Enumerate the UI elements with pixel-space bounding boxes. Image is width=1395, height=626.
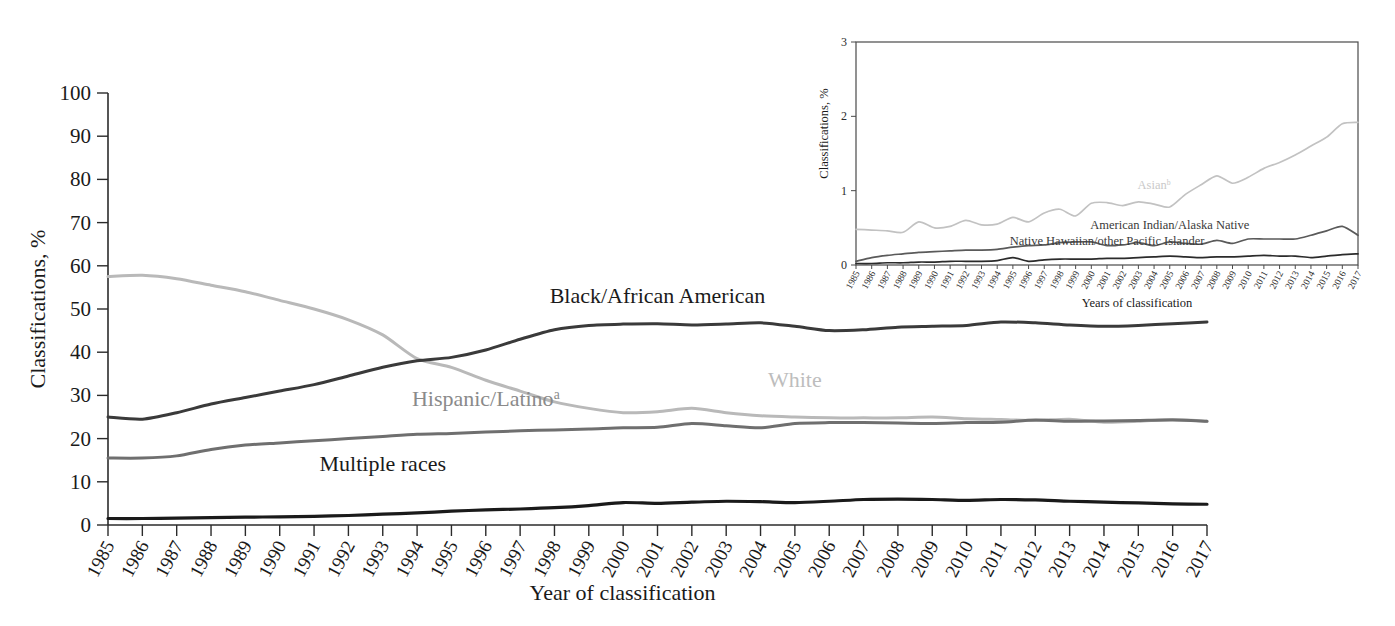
y-axis-tick-label: 60	[70, 254, 91, 278]
inset-x-axis-tick-label: 2010	[1236, 269, 1254, 291]
x-axis-tick-label: 1995	[426, 537, 462, 580]
x-axis-tick-label: 1989	[220, 537, 256, 580]
inset-x-axis-tick-label: 1992	[954, 269, 972, 291]
inset-x-axis-tick-label: 2015	[1315, 269, 1333, 291]
y-axis-tick-label: 20	[70, 427, 91, 451]
x-axis-tick-label: 2006	[803, 537, 839, 580]
inset-y-axis-tick-label: 2	[841, 109, 847, 123]
inset-x-axis-tick-label: 2014	[1299, 269, 1317, 291]
x-axis-tick-label: 2011	[975, 537, 1011, 580]
series-label-hispanic-latino: Hispanic/Latinoa	[412, 386, 560, 411]
x-axis-tick-label: 2007	[838, 537, 874, 580]
x-axis-tick-label: 1998	[529, 537, 565, 580]
inset-x-axis-tick-label: 2006	[1173, 269, 1191, 291]
y-axis-tick-label: 100	[60, 81, 92, 105]
y-axis-title: Classifications, %	[25, 230, 50, 389]
inset-x-axis-tick-label: 1986	[860, 269, 878, 291]
inset-x-axis-tick-label: 1993	[970, 269, 988, 291]
inset-x-axis-tick-label: 1996	[1017, 269, 1035, 291]
inset-x-axis-tick-label: 1989	[907, 269, 925, 291]
inset-series-label-asian: Asianb	[1138, 178, 1171, 193]
x-axis-tick-label: 1996	[460, 537, 496, 580]
inset-series-label-american-indian-alaska-native: American Indian/Alaska Native	[1090, 218, 1249, 232]
x-axis-tick-label: 1992	[323, 537, 359, 580]
x-axis-tick-label: 1991	[288, 537, 324, 580]
inset-x-axis-tick-label: 1994	[985, 269, 1003, 291]
x-axis-tick-label: 2017	[1181, 537, 1217, 580]
series-line-hispanic-latino	[108, 420, 1207, 458]
inset-x-axis-tick-label: 2013	[1283, 269, 1301, 291]
x-axis-tick-label: 2014	[1078, 537, 1115, 581]
x-axis-tick-label: 1988	[185, 537, 221, 580]
x-axis-tick-label: 2016	[1147, 537, 1183, 580]
x-axis-tick-label: 2003	[700, 537, 736, 580]
y-axis-tick-label: 90	[70, 124, 91, 148]
inset-x-axis-tick-label: 1990	[922, 269, 940, 291]
inset-x-axis-tick-label: 1997	[1032, 269, 1050, 291]
x-axis-title: Year of classification	[530, 580, 716, 605]
series-line-black-african-american	[108, 322, 1207, 419]
inset-x-axis-tick-label: 2003	[1126, 269, 1144, 291]
inset-series-label-native-hawaiian-other-pacific-islander: Native Hawaiian/other Pacific Islander	[1010, 234, 1206, 248]
inset-x-axis-tick-label: 1991	[938, 269, 956, 291]
x-axis-tick-label: 2008	[872, 537, 908, 580]
y-axis-tick-label: 10	[70, 470, 91, 494]
figure-root: 0102030405060708090100Classifications, %…	[0, 0, 1395, 626]
x-axis-tick-label: 1999	[563, 537, 599, 580]
y-axis-tick-label: 80	[70, 167, 91, 191]
inset-x-axis-tick-label: 2001	[1095, 269, 1113, 291]
x-axis-tick-label: 1985	[82, 537, 118, 580]
inset-x-axis-tick-label: 2002	[1111, 269, 1129, 291]
inset-x-axis-tick-label: 2011	[1252, 269, 1270, 290]
inset-x-axis-tick-label: 2007	[1189, 269, 1207, 291]
inset-x-axis-tick-label: 1998	[1048, 269, 1066, 291]
x-axis-tick-label: 1986	[116, 537, 152, 580]
inset-x-axis-tick-label: 2012	[1268, 269, 1286, 291]
inset-x-axis-tick-label: 1985	[844, 269, 862, 291]
x-axis-tick-label: 1987	[151, 537, 187, 580]
inset-x-axis-tick-label: 2008	[1205, 269, 1223, 291]
inset-x-axis-tick-label: 1999	[1064, 269, 1082, 291]
inset-x-axis-tick-label: 2005	[1158, 269, 1176, 291]
inset-x-axis-title: Years of classification	[1082, 296, 1193, 310]
inset-y-axis-title: Classifications, %	[817, 88, 831, 178]
inset-x-axis-tick-label: 2017	[1346, 269, 1364, 291]
y-axis-tick-label: 50	[70, 297, 91, 321]
y-axis-tick-label: 70	[70, 211, 91, 235]
x-axis-tick-label: 1993	[357, 537, 393, 580]
inset-x-axis-tick-label: 2016	[1330, 269, 1348, 291]
series-line-multiple-races	[108, 499, 1207, 518]
inset-x-axis-tick-label: 1995	[1001, 269, 1019, 291]
inset-x-axis-tick-label: 1988	[891, 269, 909, 291]
x-axis-tick-label: 2013	[1044, 537, 1080, 580]
inset-x-axis-tick-label: 2009	[1221, 269, 1239, 291]
inset-y-axis-tick-label: 3	[841, 35, 847, 49]
x-axis-tick-label: 2005	[769, 537, 805, 580]
y-axis-tick-label: 40	[70, 340, 91, 364]
inset-x-axis-tick-label: 1987	[875, 269, 893, 291]
x-axis-tick-label: 2004	[735, 537, 772, 581]
y-axis-tick-label: 0	[81, 513, 92, 537]
race-ethnicity-classification-line-chart: 0102030405060708090100Classifications, %…	[0, 0, 1395, 626]
series-label-black-african-american: Black/African American	[550, 283, 766, 308]
inset-plot: 0123Classifications, %198519861987198819…	[817, 35, 1364, 310]
inset-y-axis-tick-label: 1	[841, 184, 847, 198]
series-label-multiple-races: Multiple races	[320, 451, 446, 476]
x-axis-tick-label: 2001	[632, 537, 668, 580]
x-axis-tick-label: 1994	[391, 537, 428, 581]
x-axis-tick-label: 2015	[1112, 537, 1148, 580]
x-axis-tick-label: 1997	[494, 537, 530, 580]
inset-x-axis-tick-label: 2000	[1079, 269, 1097, 291]
y-axis-tick-label: 30	[70, 383, 91, 407]
inset-x-axis-tick-label: 2004	[1142, 269, 1160, 291]
x-axis-tick-label: 2010	[941, 537, 977, 580]
x-axis-tick-label: 2002	[666, 537, 702, 580]
x-axis-tick-label: 2000	[597, 537, 633, 580]
x-axis-tick-label: 1990	[254, 537, 290, 580]
x-axis-tick-label: 2012	[1009, 537, 1045, 580]
inset-y-axis-tick-label: 0	[841, 258, 847, 272]
series-label-white: White	[768, 367, 822, 392]
x-axis-tick-label: 2009	[906, 537, 942, 580]
